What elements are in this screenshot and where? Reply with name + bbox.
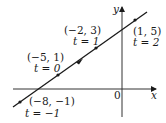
origin-label: 0 xyxy=(114,89,121,101)
y-axis-label: y xyxy=(112,3,120,15)
param-label-t-0: t = 0 xyxy=(34,62,61,74)
point-t-minus-1 xyxy=(18,100,21,103)
parametric-line-diagram: y x 0 (−8, −1) t = −1 (−5, 1) t = 0 (−2,… xyxy=(0,0,166,123)
param-label-t-minus-1: t = −1 xyxy=(25,107,60,119)
param-label-t-2: t = 2 xyxy=(133,36,160,48)
coord-label-t-minus-1: (−8, −1) xyxy=(29,95,75,107)
x-axis-label: x xyxy=(151,89,157,101)
point-t-2 xyxy=(133,18,136,21)
param-label-t-1: t = 1 xyxy=(73,35,99,47)
